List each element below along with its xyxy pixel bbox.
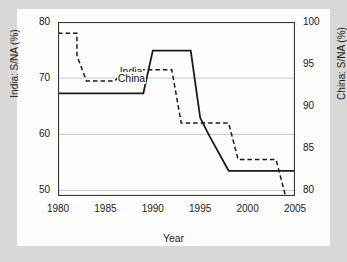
x-axis-label: Year <box>0 232 347 244</box>
y-tick-label-left: 70 <box>24 72 50 83</box>
x-tick-label: 2000 <box>228 203 268 214</box>
plot-area: India China <box>58 22 295 196</box>
y-tick-label-left: 80 <box>24 16 50 27</box>
x-tick-label: 1980 <box>38 203 78 214</box>
x-tick-label: 1985 <box>85 203 125 214</box>
y-tick-label-right: 100 <box>303 16 329 27</box>
y-tick-label-right: 80 <box>303 184 329 195</box>
figure: India: S/NA (%) China: S/NA (%) Year 506… <box>0 0 347 262</box>
series-line-china <box>58 51 295 171</box>
chart-svg <box>58 22 295 196</box>
x-tick-label: 1990 <box>133 203 173 214</box>
gridlines <box>58 22 295 190</box>
y-tick-label-right: 90 <box>303 100 329 111</box>
y-axis-label-left: India: S/NA (%) <box>9 4 20 124</box>
y-tick-label-right: 85 <box>303 142 329 153</box>
x-tick-label: 1995 <box>180 203 220 214</box>
y-tick-label-left: 60 <box>24 128 50 139</box>
x-tick-label: 2005 <box>275 203 315 214</box>
y-tick-label-right: 95 <box>303 58 329 69</box>
plot-frame <box>59 23 295 196</box>
series-group <box>58 33 295 196</box>
y-axis-label-right: China: S/NA (%) <box>336 4 347 124</box>
y-tick-label-left: 50 <box>24 184 50 195</box>
series-label-china: China <box>117 72 146 84</box>
